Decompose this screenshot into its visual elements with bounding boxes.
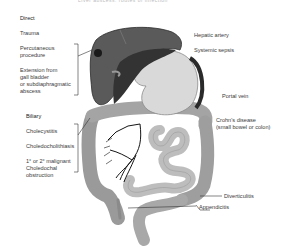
label-extension-2: gall bladder	[20, 74, 49, 81]
group-header-direct: Direct	[20, 15, 35, 22]
label-crohns-2: (small bowel or colon)	[216, 124, 270, 131]
label-portal-vein: Portal vein	[222, 93, 248, 100]
portal-vessels	[104, 124, 141, 182]
label-trauma: Trauma	[20, 30, 39, 37]
label-extension-3: or subdiaphragmatic	[20, 81, 71, 88]
label-extension-4: abscess	[20, 88, 41, 95]
label-appendicitis: Appendicitis	[199, 204, 229, 211]
label-systemic-sepsis: Systemic sepsis	[194, 47, 234, 54]
label-choledocholithiasis: Choledocholithiasis	[26, 143, 74, 150]
label-percutaneous-1: Percutaneous	[20, 45, 55, 52]
label-crohns-1: Crohn's disease	[216, 117, 256, 124]
abscess-spot	[94, 49, 102, 57]
label-extension-1: Extension from	[20, 67, 57, 74]
small-bowel	[128, 130, 191, 192]
label-diverticulitis: Diverticulitis	[224, 193, 254, 200]
label-malignant-1: 1° or 2° malignant	[26, 158, 71, 165]
label-hepatic-artery: Hepatic artery	[194, 32, 229, 39]
label-cholecystitis: Cholecystitis	[26, 128, 57, 135]
label-malignant-3: obstruction	[26, 172, 53, 179]
group-header-biliary: Biliary	[26, 113, 41, 120]
label-malignant-2: Choledochal	[26, 165, 57, 172]
label-percutaneous-2: procedure	[20, 52, 45, 59]
